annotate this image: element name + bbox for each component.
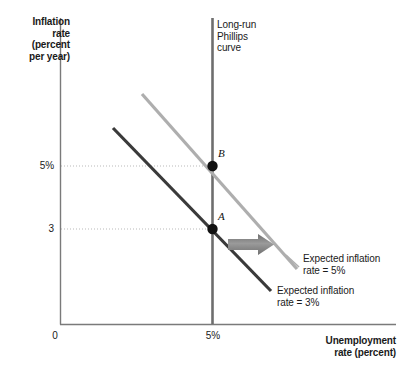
x-tick-label-origin: 0: [48, 330, 62, 342]
expected-inflation-5-label: Expected inflation rate = 5%: [303, 253, 399, 276]
data-point-label-b: B: [218, 148, 225, 160]
data-point-b: [207, 161, 217, 171]
expected-inflation-3-label: Expected inflation rate = 3%: [277, 285, 381, 308]
data-point-a: [207, 224, 217, 234]
x-tick-label-5-percent: 5%: [200, 330, 226, 342]
y-axis-title: Inflation rate (percent per year): [6, 16, 70, 62]
data-point-label-a: A: [218, 211, 225, 223]
y-tick-label-3: 3: [28, 223, 54, 235]
phillips-curve-figure: Inflation rate (percent per year) Unempl…: [0, 0, 402, 370]
long-run-phillips-curve-label: Long-run Phillips curve: [217, 19, 297, 54]
y-tick-label-5-percent: 5%: [28, 160, 54, 172]
x-axis-title: Unemployment rate (percent): [276, 335, 396, 358]
